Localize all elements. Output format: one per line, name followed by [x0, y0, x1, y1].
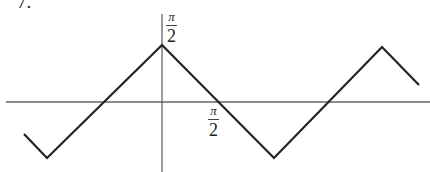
denominator: 2: [167, 27, 176, 45]
y-tick-label-pi-over-2: π 2: [166, 10, 177, 45]
x-tick-label-pi-over-2: π 2: [208, 104, 219, 139]
numerator: π: [168, 10, 175, 23]
denominator: 2: [209, 121, 218, 139]
triangle-wave-graph: [0, 0, 430, 172]
numerator: π: [210, 104, 217, 117]
